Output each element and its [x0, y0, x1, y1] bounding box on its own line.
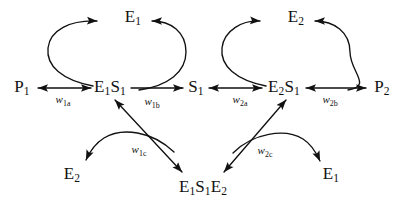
- weight-w1c-sub: 1c: [139, 149, 146, 158]
- node-e1s1: E1S1: [94, 78, 126, 98]
- edge-e1s1e2-e2s1: [224, 100, 286, 172]
- node-e2-bottom-base: E: [64, 164, 74, 183]
- node-e2s1-s-sub: 1: [294, 85, 300, 98]
- node-s1-base: S: [188, 77, 198, 96]
- weight-label-w1b: w1b: [144, 96, 159, 109]
- arc-p2-to-e2-top: [315, 21, 360, 90]
- node-p1-sub: 1: [24, 85, 30, 98]
- node-s1-sub: 1: [198, 85, 204, 98]
- weight-w2b-sub: 2b: [330, 99, 338, 108]
- node-e1s1e2-e2: E: [211, 177, 221, 196]
- node-e1s1-s-sub: 1: [120, 85, 126, 98]
- node-s1: S1: [188, 78, 203, 98]
- node-e2-top-base: E: [288, 7, 298, 26]
- node-e2-top: E2: [288, 8, 304, 28]
- node-p2-sub: 2: [384, 85, 390, 98]
- node-e2s1: E2S1: [268, 78, 300, 98]
- node-e2s1-s: S: [284, 77, 294, 96]
- node-p1-base: P: [14, 77, 24, 96]
- weight-w1b-sub: 1b: [152, 101, 160, 110]
- node-e1s1e2-e1: E: [179, 177, 189, 196]
- node-e1-top: E1: [125, 8, 141, 28]
- node-e2-bottom-sub: 2: [74, 172, 80, 185]
- weight-label-w2c: w2c: [258, 145, 273, 158]
- edge-e1s1-e1s1e2: [115, 100, 182, 172]
- node-p2-base: P: [374, 77, 384, 96]
- arc-to-e1-bottom: [233, 133, 320, 161]
- node-e1s1e2: E1S1E2: [179, 178, 227, 198]
- node-p2: P2: [374, 78, 389, 98]
- weight-label-w2b: w2b: [322, 94, 337, 107]
- node-e1-bottom-sub: 1: [333, 172, 339, 185]
- node-p1: P1: [14, 78, 29, 98]
- arc-s1-to-e1-top: [139, 21, 186, 90]
- node-e2-bottom: E2: [64, 165, 80, 185]
- node-e1s1e2-e2-sub: 2: [221, 185, 227, 198]
- node-e1-top-base: E: [125, 7, 135, 26]
- node-e2-top-sub: 2: [298, 15, 304, 28]
- weight-w2a-sub: 2a: [240, 99, 247, 108]
- arc-e2s1-to-e2-top: [222, 21, 266, 86]
- weight-w1a-sub: 1a: [63, 99, 70, 108]
- node-e1s1e2-s: S: [195, 177, 205, 196]
- node-e1-bottom: E1: [323, 165, 339, 185]
- node-e1s1-e: E: [94, 77, 104, 96]
- weight-label-w1a: w1a: [56, 94, 71, 107]
- weight-label-w2a: w2a: [233, 94, 248, 107]
- reaction-network-diagram: E1 E2 P1 E1S1 S1 E2S1 P2 E2 E1S1E2 E1 w1…: [0, 0, 412, 207]
- weight-w2c-sub: 2c: [265, 150, 272, 159]
- arc-e1s1-to-e1-top: [48, 21, 97, 86]
- node-e1-top-sub: 1: [135, 15, 141, 28]
- node-e1s1-s: S: [110, 77, 120, 96]
- arc-to-e2-bottom: [86, 132, 174, 160]
- node-e2s1-e: E: [268, 77, 278, 96]
- weight-label-w1c: w1c: [132, 144, 147, 157]
- node-e1-bottom-base: E: [323, 164, 333, 183]
